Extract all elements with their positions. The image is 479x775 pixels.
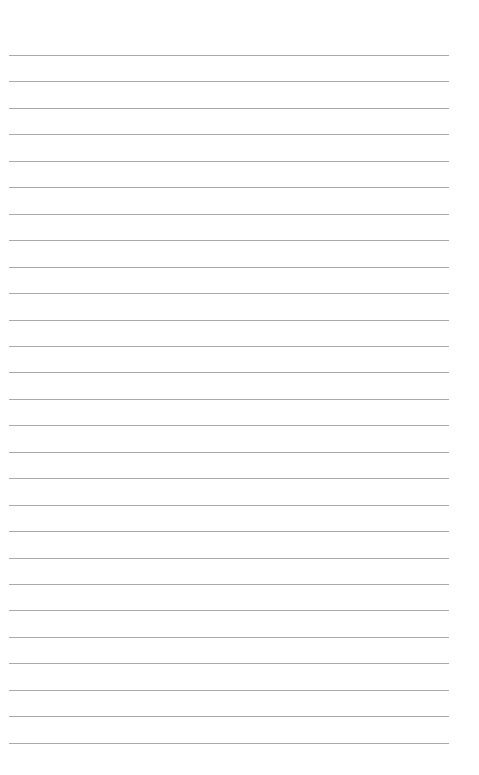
ruled-line: [9, 187, 449, 188]
ruled-line: [9, 663, 449, 664]
ruled-line: [9, 240, 449, 241]
ruled-line: [9, 81, 449, 82]
ruled-line: [9, 610, 449, 611]
ruled-line: [9, 425, 449, 426]
ruled-line: [9, 293, 449, 294]
ruled-line: [9, 320, 449, 321]
ruled-line: [9, 637, 449, 638]
ruled-line: [9, 505, 449, 506]
ruled-line: [9, 108, 449, 109]
ruled-line: [9, 55, 449, 56]
ruled-line: [9, 267, 449, 268]
ruled-line: [9, 716, 449, 717]
ruled-line: [9, 558, 449, 559]
ruled-line: [9, 690, 449, 691]
ruled-line: [9, 372, 449, 373]
ruled-line: [9, 531, 449, 532]
ruled-line: [9, 134, 449, 135]
ruled-line: [9, 214, 449, 215]
ruled-line: [9, 346, 449, 347]
ruled-line: [9, 478, 449, 479]
ruled-line: [9, 743, 449, 744]
ruled-page: [0, 0, 479, 775]
ruled-line: [9, 161, 449, 162]
ruled-line: [9, 584, 449, 585]
ruled-line: [9, 452, 449, 453]
ruled-line: [9, 399, 449, 400]
